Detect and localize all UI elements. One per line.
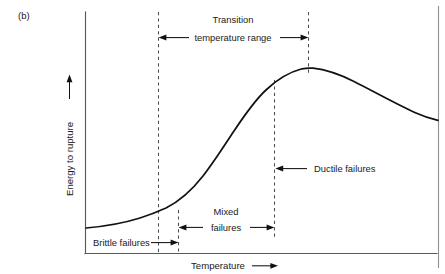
figure-panel-b: (b) Energy to rupture Temperature [0,0,445,274]
right-arrow-icon-transition [280,35,308,41]
y-axis-title: Energy to rupture [64,122,75,196]
annotation-brittle-failures: Brittle failures [93,237,178,248]
energy-rupture-chart: (b) Energy to rupture Temperature [0,0,445,274]
ductile-label: Ductile failures [314,163,376,174]
right-arrow-icon-mixed [250,224,274,230]
mixed-label-line1: Mixed [213,206,238,217]
annotation-mixed-failures: Mixed failures [179,206,275,233]
brittle-label: Brittle failures [93,237,150,248]
right-arrow-icon-brittle [151,240,178,246]
right-arrow-icon-x-axis [252,263,278,269]
transition-label-line2: temperature range [194,32,271,43]
left-arrow-icon-mixed [179,224,203,230]
left-arrow-icon-ductile [275,166,307,172]
up-arrow-icon [67,75,73,100]
mixed-label-line2: failures [211,222,242,233]
transition-label-line1: Transition [213,14,254,25]
left-arrow-icon-transition [159,35,189,41]
annotation-transition-temperature-range: Transition temperature range [159,14,309,43]
energy-rupture-curve [86,68,438,228]
x-axis-title: Temperature [191,260,245,271]
annotation-ductile-failures: Ductile failures [275,163,375,174]
panel-label: (b) [18,10,30,21]
y-axis-title-group: Energy to rupture [64,75,75,197]
x-axis-title-group: Temperature [191,260,278,271]
